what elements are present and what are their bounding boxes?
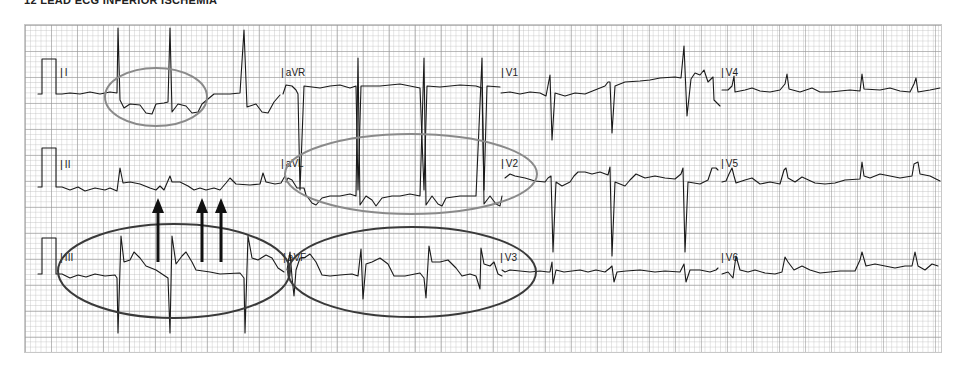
trace-lead-II [38,148,285,191]
annotation-ellipse-aVL-V2 [285,134,537,214]
annotation-ellipse-lead-III [58,224,290,318]
arrow-up-icon [152,198,164,262]
arrow-up-icon [215,198,227,262]
ecg-traces [0,0,964,370]
trace-lead-I [38,28,280,114]
annotation-ellipse-aVF-V3 [288,227,536,317]
arrow-up-icon [196,198,208,262]
